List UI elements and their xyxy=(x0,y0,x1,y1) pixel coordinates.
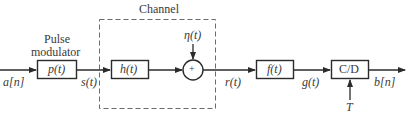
output-signal-label: b[n] xyxy=(374,76,395,88)
sample-period-label: T xyxy=(346,101,353,113)
pulse-block-label: p(t) xyxy=(48,63,65,75)
noise-signal-label: η(t) xyxy=(184,29,201,41)
receive-filter-label: f(t) xyxy=(267,63,282,75)
received-signal-label: r(t) xyxy=(225,76,241,88)
modulator-label-line1: Pulse xyxy=(44,33,70,45)
channel-filter-label: h(t) xyxy=(120,63,137,75)
channel-label: Channel xyxy=(139,3,179,15)
modulator-label-line2: modulator xyxy=(31,46,80,58)
filtered-signal-label: g(t) xyxy=(302,76,319,88)
sampler-label: C/D xyxy=(339,63,359,75)
block-diagram: Channel Pulse modulator p(t) h(t) + f(t)… xyxy=(0,0,406,117)
input-signal-label: a[n] xyxy=(3,76,24,88)
adder-plus-label: + xyxy=(189,64,195,74)
modulated-signal-label: s(t) xyxy=(81,76,97,88)
